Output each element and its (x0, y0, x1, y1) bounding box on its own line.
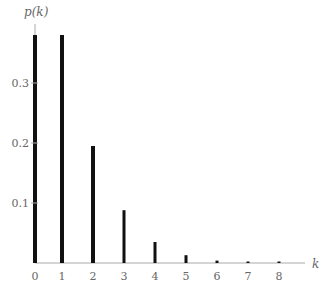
bar-k-7 (247, 262, 250, 264)
y-tick-label: 0.2 (12, 137, 30, 150)
bar-k-2 (91, 146, 95, 263)
bar-k-3 (123, 210, 126, 263)
x-tick-label: 2 (90, 270, 97, 283)
x-axis-label: k (312, 257, 319, 271)
y-tick-label: 0.3 (12, 77, 30, 90)
y-axis-label: p(k) (24, 5, 49, 19)
bar-k-4 (154, 242, 157, 263)
bar-k-8 (278, 262, 281, 264)
bar-chart: 012345678 0.10.20.3 p(k) k (0, 0, 333, 292)
x-tick-labels: 012345678 (32, 270, 283, 283)
x-tick-label: 8 (276, 270, 283, 283)
x-tick-label: 1 (59, 270, 66, 283)
y-tick-label: 0.1 (12, 197, 30, 210)
bar-k-0 (33, 35, 37, 263)
bar-k-6 (216, 261, 219, 263)
bar-k-5 (185, 255, 188, 263)
x-tick-label: 4 (152, 270, 159, 283)
x-tick-label: 3 (121, 270, 128, 283)
bars (33, 35, 281, 263)
x-tick-label: 7 (245, 270, 252, 283)
axes (35, 24, 305, 263)
x-tick-label: 0 (32, 270, 39, 283)
x-tick-label: 6 (214, 270, 221, 283)
bar-k-1 (60, 35, 64, 263)
x-tick-label: 5 (183, 270, 190, 283)
